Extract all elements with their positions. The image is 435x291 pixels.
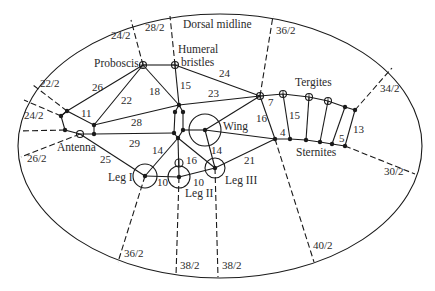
count-34-2: 34/2 (380, 83, 400, 94)
edge-15a: 15 (180, 80, 191, 91)
edge-22: 22 (121, 95, 132, 106)
edge-13: 13 (353, 124, 364, 135)
edge-14b: 14 (211, 145, 222, 156)
edge-18: 18 (149, 86, 160, 97)
label-sternites: Sternites (296, 147, 336, 159)
edge-16a: 16 (186, 155, 197, 166)
count-26-2: 26/2 (27, 153, 47, 164)
edge-7: 7 (268, 97, 274, 108)
label-dorsal-midline: Dorsal midline (183, 19, 252, 31)
edge-21: 21 (244, 155, 255, 166)
label-wing: Wing (223, 121, 248, 133)
edge-24: 24 (219, 68, 230, 79)
edge-14a: 14 (152, 145, 163, 156)
label-bristles: bristles (181, 57, 214, 69)
edge-29: 29 (129, 138, 140, 149)
label-leg1: Leg I (108, 172, 133, 184)
count-24-2-top: 24/2 (111, 30, 131, 41)
label-humeral: Humeral (178, 44, 218, 56)
count-38-2-a: 38/2 (180, 260, 200, 271)
label-tergites: Tergites (295, 77, 332, 89)
edge-10a: 10 (157, 177, 168, 188)
label-antenna: Antenna (57, 142, 96, 154)
edge-10b: 10 (193, 177, 204, 188)
edge-11: 11 (81, 108, 92, 119)
count-36-2-bottom: 36/2 (124, 248, 144, 259)
label-proboscis: Proboscis (94, 58, 139, 70)
edge-26: 26 (92, 82, 103, 93)
count-40-2: 40/2 (313, 240, 333, 251)
label-leg3: Leg III (225, 175, 257, 187)
edge-15b: 15 (289, 110, 300, 121)
count-28-2: 28/2 (145, 22, 165, 33)
edge-28: 28 (131, 117, 142, 128)
count-22-2: 22/2 (40, 78, 60, 89)
label-leg2: Leg II (185, 188, 213, 200)
count-30-2: 30/2 (384, 166, 404, 177)
edge-4: 4 (280, 127, 286, 138)
edge-16b: 16 (256, 113, 267, 124)
count-38-2-b: 38/2 (222, 260, 242, 271)
edge-25: 25 (100, 154, 111, 165)
count-24-2-left: 24/2 (24, 110, 44, 121)
count-36-2-top: 36/2 (276, 25, 296, 36)
edge-5: 5 (339, 133, 345, 144)
edge-23: 23 (208, 88, 219, 99)
sensory-fields (77, 62, 332, 189)
